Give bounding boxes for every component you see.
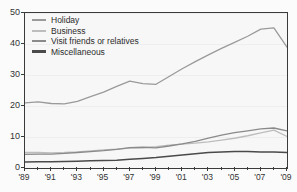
x-axis-tick-label: '07 <box>254 173 265 182</box>
legend-label: Business <box>51 26 86 36</box>
y-axis-tick-label: 30 <box>0 70 20 79</box>
x-axis-tick-label: '91 <box>45 173 56 182</box>
chart-legend: HolidayBusinessVisit friends or relative… <box>32 15 139 57</box>
x-axis-tick-mark <box>286 167 287 171</box>
x-axis-tick-mark <box>247 167 248 170</box>
x-axis-tick-mark <box>155 167 156 171</box>
y-axis-tick-mark <box>21 136 24 137</box>
legend-item[interactable]: Miscellaneous <box>32 47 139 57</box>
x-axis-tick-label: '05 <box>228 173 239 182</box>
x-axis-tick-label: '99 <box>149 173 160 182</box>
y-axis-tick-label: 10 <box>0 132 20 141</box>
x-axis-tick-mark <box>103 167 104 171</box>
x-axis-tick-mark <box>50 167 51 171</box>
x-axis-tick-label: '01 <box>176 173 187 182</box>
y-axis-tick-label: 40 <box>0 39 20 48</box>
x-axis-tick-mark <box>37 167 38 170</box>
x-axis-tick-mark <box>24 167 25 171</box>
x-axis-tick-mark <box>181 167 182 171</box>
legend-swatch-icon <box>32 30 46 32</box>
x-axis-tick-mark <box>129 167 130 171</box>
y-axis-tick-mark <box>21 43 24 44</box>
x-axis-tick-label: '09 <box>280 173 291 182</box>
x-axis-tick-label: '93 <box>71 173 82 182</box>
series-line-business <box>25 130 287 153</box>
y-axis-tick-mark <box>21 105 24 106</box>
legend-swatch-icon <box>32 50 46 53</box>
x-axis-tick-label: '95 <box>97 173 108 182</box>
legend-label: Miscellaneous <box>51 47 105 57</box>
y-axis-tick-mark <box>21 74 24 75</box>
legend-swatch-icon <box>32 40 46 42</box>
y-axis-tick-label: 0 <box>0 163 20 172</box>
legend-label: Visit friends or relatives <box>51 36 139 46</box>
legend-item[interactable]: Holiday <box>32 15 139 25</box>
series-line-visit-friends-or-relatives <box>25 128 287 154</box>
x-axis-tick-label: '89 <box>18 173 29 182</box>
legend-item[interactable]: Business <box>32 26 139 36</box>
legend-label: Holiday <box>51 15 79 25</box>
x-axis-tick-mark <box>194 167 195 170</box>
x-axis-tick-mark <box>273 167 274 170</box>
y-axis-tick-label: 20 <box>0 101 20 110</box>
chart-container: 01020304050 '89'91'93'95'97'99'01'03'05'… <box>0 0 297 192</box>
x-axis-tick-mark <box>260 167 261 171</box>
x-axis-tick-label: '97 <box>123 173 134 182</box>
legend-item[interactable]: Visit friends or relatives <box>32 36 139 46</box>
x-axis-tick-mark <box>207 167 208 171</box>
x-axis-tick-mark <box>116 167 117 170</box>
x-axis-tick-mark <box>63 167 64 170</box>
x-axis-tick-mark <box>168 167 169 170</box>
x-axis-tick-mark <box>234 167 235 171</box>
legend-swatch-icon <box>32 19 46 21</box>
x-axis-tick-mark <box>221 167 222 170</box>
x-axis-tick-label: '03 <box>202 173 213 182</box>
y-axis-tick-mark <box>21 12 24 13</box>
x-axis-tick-mark <box>90 167 91 170</box>
x-axis-tick-mark <box>76 167 77 171</box>
x-axis-tick-mark <box>142 167 143 170</box>
y-axis-tick-label: 50 <box>0 8 20 17</box>
